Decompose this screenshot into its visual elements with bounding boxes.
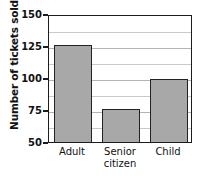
bar bbox=[150, 79, 188, 142]
y-tick-mark bbox=[43, 142, 48, 144]
y-tick-label-wrap: 50 bbox=[10, 138, 42, 148]
x-tick-label: Seniorcitizen bbox=[96, 146, 144, 170]
x-tick-label: Adult bbox=[48, 146, 96, 158]
x-tick-label-line1: Adult bbox=[48, 146, 96, 158]
y-tick-label: 125 bbox=[16, 42, 42, 52]
y-tick-mark bbox=[43, 110, 48, 112]
x-tick-label-line1: Senior bbox=[96, 146, 144, 158]
chart-title: Number of tickets sold bbox=[48, 0, 192, 3]
y-tick-label-wrap: 125 bbox=[10, 42, 42, 52]
bar bbox=[54, 45, 92, 142]
y-tick-label: 50 bbox=[16, 138, 42, 148]
plot-area bbox=[48, 15, 192, 143]
y-tick-label-wrap: 150 bbox=[10, 10, 42, 20]
y-tick-label-wrap: 75 bbox=[10, 106, 42, 116]
y-tick-label: 100 bbox=[16, 74, 42, 84]
x-tick-label-line1: Child bbox=[144, 146, 192, 158]
y-tick-label: 150 bbox=[16, 10, 42, 20]
bar-series bbox=[49, 16, 191, 142]
y-tick-mark bbox=[43, 46, 48, 48]
y-tick-label: 75 bbox=[16, 106, 42, 116]
bar bbox=[102, 109, 140, 142]
x-tick-label-line2: citizen bbox=[96, 158, 144, 170]
bar-chart: Number of tickets sold Number of tickets… bbox=[0, 0, 203, 182]
y-tick-mark bbox=[43, 78, 48, 80]
y-tick-mark bbox=[43, 14, 48, 16]
x-tick-label: Child bbox=[144, 146, 192, 158]
y-tick-label-wrap: 100 bbox=[10, 74, 42, 84]
